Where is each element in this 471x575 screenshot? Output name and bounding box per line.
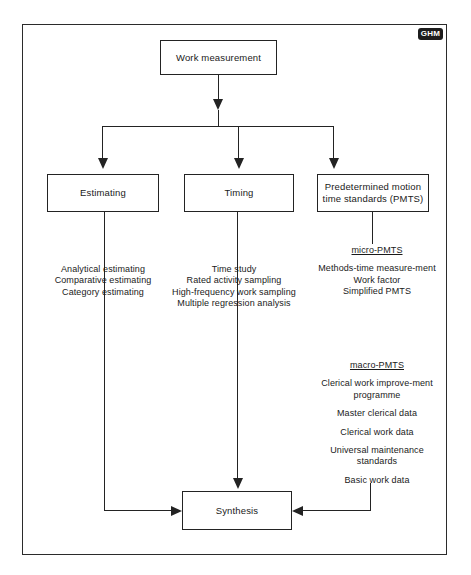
list-timing-techniques: Time study Rated activity sampling High-… (150, 264, 318, 310)
list-micro-pmts: micro-PMTS Methods-time measure-ment Wor… (312, 245, 442, 298)
node-timing: Timing (184, 174, 294, 212)
connector-pmts-down-stub (372, 212, 373, 244)
connector-bus-to-estimating (102, 126, 103, 160)
node-estimating-label: Estimating (80, 187, 126, 199)
node-pmts-label: Predetermined motion time standards (PMT… (322, 181, 424, 205)
list-item: Universal maintenance standards (310, 445, 444, 468)
list-item: Master clerical data (310, 408, 444, 419)
connector-bus-to-timing (238, 126, 239, 160)
arrow-bus-to-estimating-icon (98, 158, 108, 169)
connector-bus-stem (218, 110, 219, 126)
list-item: Simplified PMTS (312, 286, 442, 297)
ghm-logo: GHM (418, 28, 443, 40)
connector-estimating-to-synthesis (104, 510, 172, 511)
arrow-timing-to-synthesis-icon (233, 478, 243, 489)
connector-timing-down (237, 212, 238, 479)
list-item: Clerical work improve-ment programme (310, 378, 444, 401)
node-pmts: Predetermined motion time standards (PMT… (317, 174, 429, 212)
connector-estimating-down (104, 212, 105, 511)
arrow-pmts-to-synthesis-icon (292, 506, 303, 516)
list-item: Rated activity sampling (150, 275, 318, 286)
node-work-measurement: Work measurement (160, 40, 277, 75)
arrow-bus-to-pmts-icon (329, 158, 339, 169)
list-item: Clerical work data (310, 427, 444, 438)
node-timing-label: Timing (224, 187, 253, 199)
list-item: High-frequency work sampling (150, 287, 318, 298)
list-item: Basic work data (310, 475, 444, 486)
list-macro-pmts: macro-PMTS Clerical work improve-ment pr… (310, 360, 444, 486)
list-item: Work factor (312, 275, 442, 286)
ghm-logo-text: GHM (421, 30, 440, 38)
connector-pmts-to-synthesis-horizontal (303, 510, 371, 511)
connector-pmts-to-synthesis-vertical (370, 483, 371, 510)
arrow-bus-to-timing-icon (234, 158, 244, 169)
connector-bus-to-pmts (333, 126, 334, 160)
arrow-estimating-to-synthesis-icon (171, 506, 182, 516)
connector-bus-horizontal (102, 126, 333, 127)
list-item: Methods-time measure-ment (312, 263, 442, 274)
work-measurement-diagram: GHM Work measurement Estimating Timing P… (0, 0, 471, 575)
list-micro-pmts-heading: micro-PMTS (312, 245, 442, 256)
list-item: Time study (150, 264, 318, 275)
list-item: Multiple regression analysis (150, 298, 318, 309)
arrow-work-measurement-down-icon (213, 99, 223, 110)
node-synthesis: Synthesis (182, 491, 292, 530)
list-macro-pmts-heading: macro-PMTS (310, 360, 444, 371)
connector-work-measurement-down (218, 75, 219, 101)
node-work-measurement-label: Work measurement (176, 52, 261, 64)
node-estimating: Estimating (47, 174, 159, 212)
node-synthesis-label: Synthesis (216, 505, 259, 517)
